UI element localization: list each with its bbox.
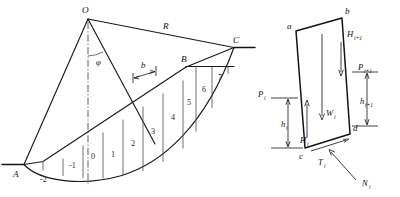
angle-arc-phi [88,52,103,56]
svg-text:H: H [346,29,354,39]
slice-number--1: -1 [69,161,76,170]
svg-text:P: P [257,89,264,99]
radius-line-OC [88,19,234,48]
slice-body-quadrilateral [296,18,350,148]
slice-number--2: -2 [40,175,47,184]
svg-text:i: i [334,114,336,120]
slice-number-4: 4 [171,113,175,122]
vertex-label-b: b [345,6,350,16]
force-label-Wi: W i [326,108,336,120]
dim-label-hi: h i [281,119,288,131]
slice-number-7: 7 [218,73,222,82]
width-label-b: b [141,60,146,70]
point-label-A: A [12,169,19,179]
svg-text:W: W [326,108,334,118]
dim-b-arrow-right [150,71,155,74]
force-label-Ti: T i [318,157,326,169]
left-diagram-group: O A B C R φ b -2 -1 0 1 2 3 4 5 6 7 [2,5,255,186]
svg-text:i: i [324,163,326,169]
svg-text:i+1: i+1 [354,35,362,41]
slice-number-1: 1 [111,150,115,159]
figure-root: O A B C R φ b -2 -1 0 1 2 3 4 5 6 7 [0,0,400,197]
svg-text:N: N [361,178,369,188]
force-label-Pi1: P i+1 [357,62,372,74]
slip-surface-arc [24,48,234,182]
point-label-C: C [233,35,240,45]
shear-arrow-Ti [311,140,346,151]
engineering-diagram-svg: O A B C R φ b -2 -1 0 1 2 3 4 5 6 7 [0,0,400,197]
normal-arrow-Ni [331,152,356,180]
vertex-label-d: d [353,123,358,133]
svg-text:i+1: i+1 [364,68,372,74]
svg-text:i: i [369,184,371,190]
dim-b-arrow-left [134,76,140,79]
svg-text:h: h [281,119,285,129]
svg-text:i+1: i+1 [365,102,373,108]
svg-text:P: P [357,62,364,72]
angle-label-phi: φ [96,57,101,67]
slope-crest-line-BC [186,48,234,68]
force-label-Hi1: H i+1 [346,29,362,41]
force-label-Pi: P i [257,89,266,101]
slice-number-6: 6 [202,85,206,94]
vertex-label-a: a [287,21,292,31]
force-label-Ni: N i [361,178,371,190]
svg-text:i: i [264,95,266,101]
vertex-label-c: c [299,151,303,161]
point-label-B: B [181,54,187,64]
radius-line-OA [24,19,88,165]
radius-label-R: R [162,21,169,31]
slice-number-0: 0 [91,152,95,161]
slope-face-line-AB [24,67,186,165]
slice-number-2: 2 [131,139,135,148]
svg-text:i: i [307,141,309,147]
svg-text:H: H [299,135,307,145]
force-label-Hi: H i [299,135,309,147]
slice-number-5: 5 [187,98,191,107]
point-label-O: O [82,5,89,15]
slice-number-3: 3 [151,127,155,136]
svg-text:h: h [360,96,364,106]
right-diagram-group: a b c d P i H i h i P i+1 H [257,6,378,190]
